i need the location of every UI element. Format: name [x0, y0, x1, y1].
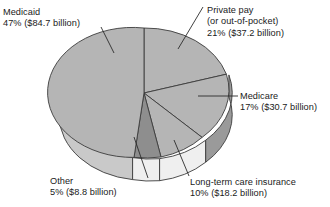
- label-medicaid-value: 47% ($84.7 billion): [3, 18, 80, 29]
- label-private-pay-name2: (or out-of-pocket): [207, 16, 284, 27]
- label-private-pay: Private pay (or out-of-pocket) 21% ($37.…: [207, 5, 284, 39]
- label-long-term-care-name: Long-term care insurance: [190, 177, 296, 188]
- label-medicaid-name: Medicaid: [3, 7, 80, 18]
- label-medicare: Medicare 17% ($30.7 billion): [240, 91, 317, 114]
- label-private-pay-name: Private pay: [207, 5, 284, 16]
- pie-slice-medicaid[interactable]: [48, 27, 144, 157]
- label-medicaid: Medicaid 47% ($84.7 billion): [3, 7, 80, 30]
- label-other-name: Other: [50, 176, 117, 187]
- label-medicare-value: 17% ($30.7 billion): [240, 102, 317, 113]
- pie-chart-figure: Medicaid 47% ($84.7 billion) Private pay…: [0, 0, 330, 207]
- side-wall-other: [133, 158, 160, 181]
- label-other: Other 5% ($8.8 billion): [50, 176, 117, 199]
- label-long-term-care: Long-term care insurance 10% ($18.2 bill…: [190, 177, 296, 200]
- label-other-value: 5% ($8.8 billion): [50, 187, 117, 198]
- pie-top-face: [48, 27, 229, 158]
- label-medicare-name: Medicare: [240, 91, 317, 102]
- label-private-pay-value: 21% ($37.2 billion): [207, 28, 284, 39]
- label-long-term-care-value: 10% ($18.2 billion): [190, 188, 296, 199]
